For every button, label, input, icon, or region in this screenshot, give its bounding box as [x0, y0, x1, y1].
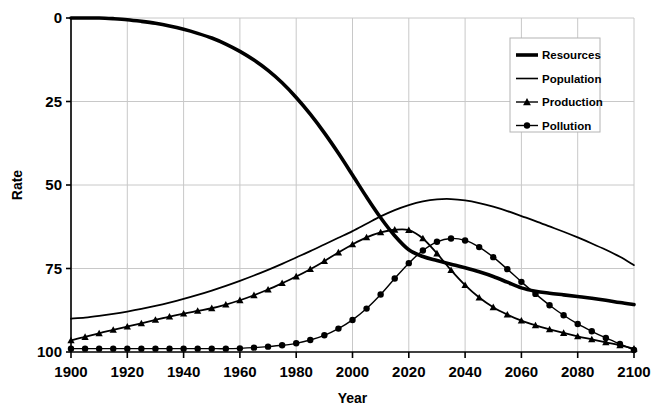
data-point-marker: [377, 291, 383, 297]
data-point-marker: [476, 244, 482, 250]
x-tick-label: 2080: [561, 363, 594, 380]
data-point-marker: [110, 345, 116, 351]
data-point-marker: [406, 260, 412, 266]
data-point-marker: [166, 345, 172, 351]
legend-item-label: Pollution: [542, 120, 591, 132]
data-point-marker: [82, 345, 88, 351]
data-point-marker: [124, 345, 130, 351]
data-point-marker: [504, 266, 510, 272]
y-tick-label: 100: [37, 343, 62, 360]
data-point-marker: [420, 247, 426, 253]
x-axis-title: Year: [338, 390, 368, 406]
data-point-marker: [321, 332, 327, 338]
data-point-marker: [180, 345, 186, 351]
data-point-marker: [392, 275, 398, 281]
y-tick-label: 0: [54, 9, 62, 26]
data-point-marker: [575, 321, 581, 327]
y-tick-label: 75: [45, 260, 62, 277]
x-tick-label: 2060: [505, 363, 538, 380]
data-point-marker: [335, 325, 341, 331]
x-tick-label: 1960: [223, 363, 256, 380]
x-tick-label: 1900: [54, 363, 87, 380]
x-tick-label: 1940: [167, 363, 200, 380]
x-tick-label: 2020: [392, 363, 425, 380]
legend-item-label: Resources: [542, 49, 601, 61]
data-point-marker: [237, 345, 243, 351]
legend-item-label: Population: [542, 73, 601, 85]
data-point-marker: [434, 239, 440, 245]
legend-item-label: Production: [542, 96, 603, 108]
data-point-marker: [518, 279, 524, 285]
y-tick-label: 25: [45, 93, 62, 110]
data-point-marker: [138, 345, 144, 351]
data-point-marker: [279, 342, 285, 348]
data-point-marker: [251, 344, 257, 350]
x-tick-label: 2040: [448, 363, 481, 380]
data-point-marker: [462, 237, 468, 243]
data-point-marker: [363, 305, 369, 311]
data-point-marker: [560, 312, 566, 318]
y-tick-label: 50: [45, 176, 62, 193]
data-point-marker: [194, 345, 200, 351]
x-tick-label: 1920: [111, 363, 144, 380]
x-tick-label: 2100: [617, 363, 650, 380]
data-point-marker: [335, 249, 342, 256]
data-point-marker: [265, 343, 271, 349]
data-point-marker: [209, 345, 215, 351]
data-point-marker: [448, 235, 454, 241]
data-point-marker: [349, 317, 355, 323]
data-point-marker: [490, 254, 496, 260]
data-point-marker: [223, 345, 229, 351]
data-point-marker: [293, 340, 299, 346]
data-point-marker: [546, 302, 552, 308]
chart-legend: ResourcesPopulationProductionPollution: [510, 38, 603, 132]
data-point-marker: [152, 345, 158, 351]
data-point-marker: [96, 345, 102, 351]
x-tick-label: 2000: [336, 363, 369, 380]
y-axis-title: Rate: [9, 170, 25, 201]
data-point-marker: [589, 328, 595, 334]
data-point-marker: [524, 122, 530, 128]
chart-container: 1007550250190019201940196019802000202020…: [0, 0, 655, 418]
data-point-marker: [321, 258, 328, 265]
data-point-marker: [490, 304, 497, 311]
data-point-marker: [307, 337, 313, 343]
data-point-marker: [68, 345, 74, 351]
x-tick-label: 1980: [280, 363, 313, 380]
line-chart: 1007550250190019201940196019802000202020…: [0, 0, 655, 418]
